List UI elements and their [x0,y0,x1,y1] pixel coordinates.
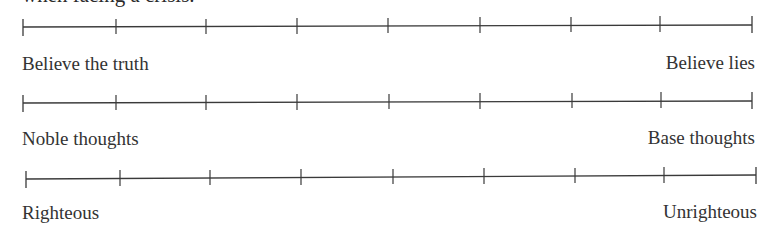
scale-line-truth[interactable] [0,0,777,40]
scale-right-label: Believe lies [666,52,755,74]
rating-scale-thoughts: Noble thoughts Base thoughts [0,76,777,152]
rating-scale-truth: Believe the truth Believe lies [0,0,777,76]
rating-scale-righteousness: Righteous Unrighteous [0,152,777,228]
scale-line-thoughts[interactable] [0,76,777,116]
scale-left-label: Believe the truth [22,53,149,75]
scale-left-label: Righteous [22,202,99,224]
scale-right-label: Base thoughts [648,127,755,149]
scale-left-label: Noble thoughts [22,128,139,150]
scale-right-label: Unrighteous [663,201,757,223]
scale-line-righteousness[interactable] [0,152,777,192]
